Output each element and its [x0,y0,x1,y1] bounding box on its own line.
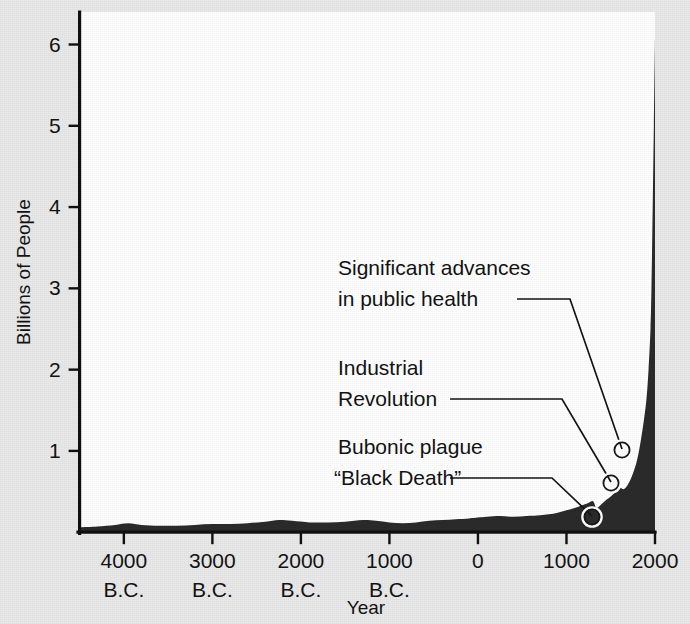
annotation-industrial-revolution-line1: Industrial [338,356,423,379]
x-tick-label-1-year: 3000 [189,549,236,572]
y-tick-label-6: 6 [49,33,61,56]
y-axis-tick-labels: 123456 [49,33,61,462]
y-axis-ticks [69,45,80,451]
y-tick-label-4: 4 [49,195,61,218]
annotation-black-death-line2: “Black Death” [334,466,461,489]
chart-canvas: 123456 4000B.C.3000B.C.2000B.C.1000B.C.0… [0,0,690,624]
y-axis-title: Billions of People [13,199,34,345]
x-tick-label-0-year: 4000 [101,549,148,572]
x-axis-tick-labels: 4000B.C.3000B.C.2000B.C.1000B.C.01000200… [101,549,679,601]
x-tick-label-0-era: B.C. [103,578,144,601]
y-tick-label-5: 5 [49,114,61,137]
x-tick-label-3-year: 1000 [366,549,413,572]
y-tick-label-2: 2 [49,358,61,381]
x-tick-label-4-year: 0 [472,549,484,572]
x-axis-title: Year [347,597,386,618]
x-tick-label-1-era: B.C. [192,578,233,601]
annotation-industrial-revolution-line2: Revolution [338,387,437,410]
y-tick-label-3: 3 [49,276,61,299]
x-tick-label-5-year: 1000 [543,549,590,572]
y-tick-label-1: 1 [49,439,61,462]
population-growth-chart: 123456 4000B.C.3000B.C.2000B.C.1000B.C.0… [0,0,690,624]
x-axis-ticks [124,532,655,544]
annotation-public-health-line1: Significant advances [338,256,531,279]
x-tick-label-2-year: 2000 [278,549,325,572]
x-tick-label-2-era: B.C. [280,578,321,601]
x-tick-label-6-year: 2000 [632,549,679,572]
annotation-public-health-line2: in public health [338,287,478,310]
annotation-black-death-line1: Bubonic plague [338,435,483,458]
